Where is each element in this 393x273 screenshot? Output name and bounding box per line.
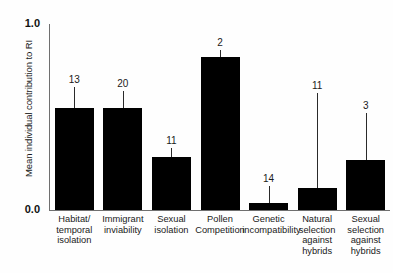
bar-2[interactable] <box>103 108 142 210</box>
x-tick-label-line: Natural <box>291 214 344 225</box>
x-tick-label-line: selection <box>291 225 344 236</box>
x-tick-label-2: Immigrantinviability <box>97 214 150 235</box>
x-tick-label-6: Naturalselectionagainsthybrids <box>291 214 344 256</box>
x-tick-label-line: Immigrant <box>97 214 150 225</box>
error-bar-4 <box>220 50 221 57</box>
x-tick-label-line: hybrids <box>339 246 392 257</box>
error-bar-7 <box>366 113 367 160</box>
bar-7[interactable] <box>346 160 385 210</box>
bar-6[interactable] <box>298 188 337 210</box>
x-tick-label-3: Sexualisolation <box>145 214 198 235</box>
bar-5[interactable] <box>249 203 288 210</box>
sample-size-label-4: 2 <box>200 37 240 48</box>
bar-3[interactable] <box>152 157 191 210</box>
x-tick-label-5: Geneticincompatibility <box>242 214 295 235</box>
error-bar-5 <box>269 186 270 203</box>
bar-chart-figure: Mean individual contribution to RI 1.0 0… <box>0 0 393 273</box>
x-tick-label-line: Genetic <box>242 214 295 225</box>
x-tick-label-line: Pollen <box>194 214 247 225</box>
plot-area: 13Habitat/temporalisolation20Immigrantin… <box>0 0 393 273</box>
x-tick-label-7: Sexualselectionagainsthybrids <box>339 214 392 256</box>
sample-size-label-7: 3 <box>346 100 386 111</box>
error-bar-2 <box>123 91 124 108</box>
x-tick-label-line: against <box>339 235 392 246</box>
error-bar-6 <box>317 93 318 188</box>
x-tick-label-line: selection <box>339 225 392 236</box>
x-tick-label-line: Habitat/ <box>48 214 101 225</box>
x-tick-label-line: inviability <box>97 225 150 236</box>
x-tick-label-1: Habitat/temporalisolation <box>48 214 101 246</box>
x-tick-label-line: hybrids <box>291 246 344 257</box>
sample-size-label-5: 14 <box>249 173 289 184</box>
sample-size-label-6: 11 <box>297 80 337 91</box>
x-tick-label-line: Sexual <box>339 214 392 225</box>
sample-size-label-2: 20 <box>103 78 143 89</box>
x-tick-label-line: temporal <box>48 225 101 236</box>
sample-size-label-1: 13 <box>54 74 94 85</box>
bar-4[interactable] <box>201 57 240 210</box>
error-bar-1 <box>74 87 75 107</box>
x-tick-label-line: isolation <box>145 225 198 236</box>
error-bar-3 <box>171 148 172 157</box>
x-tick-label-line: isolation <box>48 235 101 246</box>
x-tick-label-line: Competition <box>194 225 247 236</box>
x-tick-label-line: Sexual <box>145 214 198 225</box>
x-tick-label-line: against <box>291 235 344 246</box>
x-tick-label-4: PollenCompetition <box>194 214 247 235</box>
bar-1[interactable] <box>55 108 94 210</box>
sample-size-label-3: 11 <box>151 135 191 146</box>
x-tick-label-line: incompatibility <box>242 225 295 236</box>
